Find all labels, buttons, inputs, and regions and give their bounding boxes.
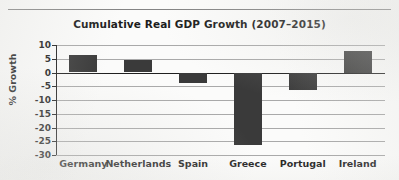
bar-spain <box>179 73 207 83</box>
y-tick-mark <box>52 155 56 156</box>
y-axis-label: % Growth <box>7 40 18 120</box>
y-tick-label: -5 <box>11 81 51 91</box>
bar-greece <box>234 73 262 146</box>
bar-ireland <box>344 51 372 73</box>
plot-area: 1050-5-10-15-20-25-30 <box>56 45 385 155</box>
y-tick-label: -10 <box>11 95 51 105</box>
page-horizontal-rule <box>8 9 391 10</box>
y-tick-label: 10 <box>11 40 51 50</box>
gridline <box>56 155 385 156</box>
bar-series <box>56 45 385 155</box>
y-tick-label: -20 <box>11 123 51 133</box>
x-axis-category-labels: GermanyNetherlandsSpainGreecePortugalIre… <box>56 158 385 176</box>
chart-title: Cumulative Real GDP Growth (2007–2015) <box>0 18 399 30</box>
y-tick-label: 0 <box>11 68 51 78</box>
x-label-ireland: Ireland <box>318 158 398 169</box>
y-tick-label: -15 <box>11 109 51 119</box>
y-tick-label: 5 <box>11 54 51 64</box>
bar-germany <box>69 55 97 72</box>
bar-netherlands <box>124 60 152 73</box>
y-tick-label: -25 <box>11 136 51 146</box>
bar-portugal <box>289 73 317 91</box>
